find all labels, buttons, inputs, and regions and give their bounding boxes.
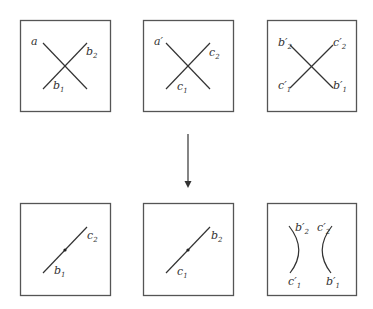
diagram-canvas: a b2 b1 a′ c2 c1 b′2 c′2 c′1 b′1 c2 b1 xyxy=(0,0,373,309)
panel-crossing-1: a b2 b1 xyxy=(21,21,111,112)
panel-crossing-2: a′ c2 c1 xyxy=(144,21,234,112)
label-b2: b2 xyxy=(211,229,223,244)
panel-smoothing-3: b′2 c′2 c′1 b′1 xyxy=(268,204,357,296)
label-c1: c1 xyxy=(177,80,188,95)
label-b1-prime: b′1 xyxy=(326,275,340,290)
label-c2-prime: c′2 xyxy=(317,221,331,236)
vertex-dot xyxy=(186,248,189,251)
label-c1-prime: c′1 xyxy=(288,275,301,290)
label-b2-prime: b′2 xyxy=(295,221,310,236)
panel-frame xyxy=(268,204,357,296)
label-c2: c2 xyxy=(87,229,98,244)
label-c2: c2 xyxy=(209,46,220,61)
panel-segment-1: c2 b1 xyxy=(21,204,111,296)
vertex-dot xyxy=(63,248,66,251)
label-b1: b1 xyxy=(54,264,66,279)
panel-crossing-3: b′2 c′2 c′1 b′1 xyxy=(268,21,357,112)
label-c1-prime: c′1 xyxy=(278,79,291,94)
label-a-prime: a′ xyxy=(154,35,164,48)
label-b2-prime: b′2 xyxy=(278,36,293,51)
label-a: a xyxy=(31,35,38,48)
label-b2: b2 xyxy=(86,45,98,60)
label-c2-prime: c′2 xyxy=(333,36,347,51)
down-arrow-icon xyxy=(185,134,192,188)
label-b1: b1 xyxy=(53,79,65,94)
label-b1-prime: b′1 xyxy=(333,79,347,94)
panel-segment-2: b2 c1 xyxy=(144,204,234,296)
label-c1: c1 xyxy=(177,265,188,280)
